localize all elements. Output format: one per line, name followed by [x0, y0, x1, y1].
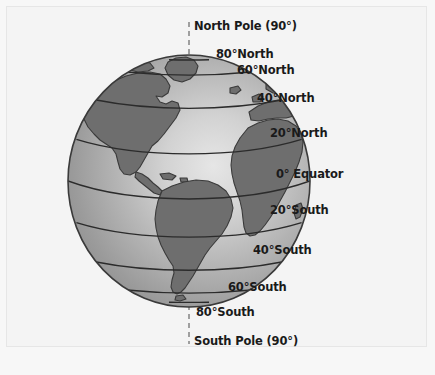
label-latitude-80-north: 80°North: [216, 49, 273, 61]
alaska-landmass: [74, 100, 86, 112]
label-south-pole: South Pole (90°): [194, 336, 298, 348]
label-latitude-20-north: 20°North: [270, 128, 327, 140]
label-latitude-60-north: 60°North: [237, 65, 294, 77]
label-north-pole: North Pole (90°): [194, 21, 297, 33]
tierra-del-fuego-landmass: [175, 295, 186, 301]
label-latitude-40-north: 40°North: [257, 93, 314, 105]
arctic-island-small: [106, 70, 120, 78]
label-latitude-80-south: 80°South: [196, 307, 255, 319]
figure-canvas: North Pole (90°) 80°North 60°North 40°No…: [0, 0, 435, 375]
label-latitude-40-south: 40°South: [253, 245, 312, 257]
label-latitude-20-south: 20°South: [270, 205, 329, 217]
label-equator: 0° Equator: [276, 169, 343, 181]
label-latitude-60-south: 60°South: [228, 282, 287, 294]
